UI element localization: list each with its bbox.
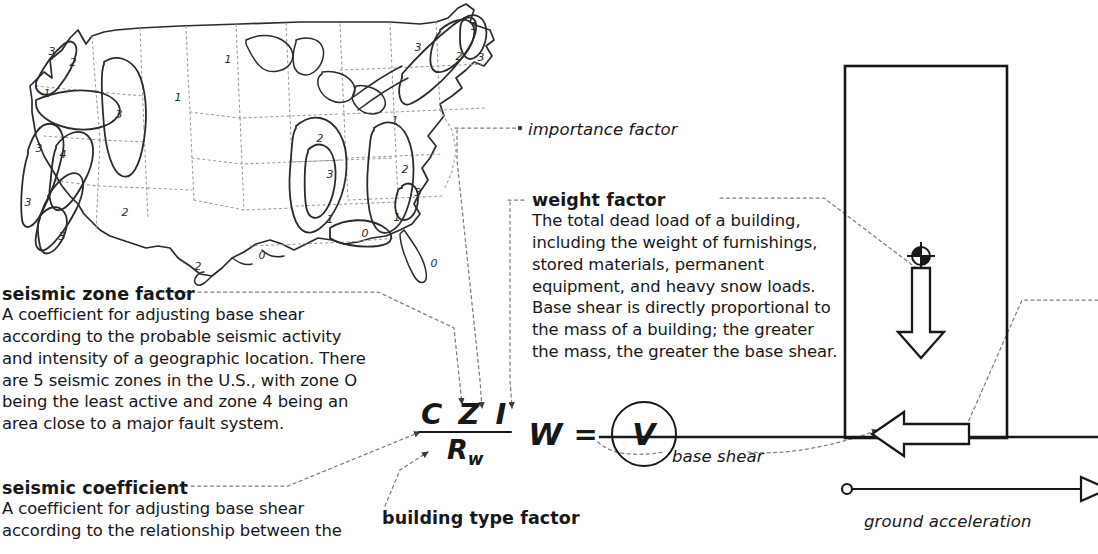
formula-fraction: C Z I Rw [418, 400, 512, 469]
base-shear-formula: C Z I Rw W = V [418, 392, 677, 476]
formula-result-symbol: V [632, 417, 655, 452]
leader-importance-factor [457, 130, 482, 408]
diagram-canvas: 32134333112223132312311000 [0, 0, 1098, 554]
weight-factor-body: The total dead load of a building, inclu… [532, 210, 844, 363]
formula-denominator-sub: w [468, 449, 484, 469]
seismic-zone-factor-body: A coefficient for adjusting base shear a… [2, 304, 374, 435]
seismic-zone-factor-heading: seismic zone factor [2, 284, 374, 304]
formula-weight-symbol: W [528, 416, 562, 452]
weight-factor-heading: weight factor [532, 190, 844, 210]
formula-result-circle: V [611, 401, 677, 467]
ground-acceleration-arrow-icon [842, 477, 1098, 501]
formula-numerator: C Z I [418, 400, 512, 431]
formula-equals: = [574, 417, 598, 451]
base-shear-arrow-icon [872, 412, 969, 456]
formula-denominator-base: R [447, 434, 468, 465]
callout-building-type-factor: building type factor [382, 508, 580, 528]
seismic-coefficient-body: A coefficient for adjusting base shear a… [2, 498, 374, 542]
leader-weight-factor-to-W [510, 202, 512, 408]
label-ground-acceleration: ground acceleration [864, 512, 1032, 531]
center-of-mass-icon [907, 242, 935, 270]
seismic-coefficient-heading: seismic coefficient [2, 478, 374, 498]
formula-denominator: Rw [447, 433, 484, 468]
callout-seismic-coefficient: seismic coefficient A coefficient for ad… [2, 478, 374, 542]
callout-seismic-zone-factor: seismic zone factor A coefficient for ad… [2, 284, 374, 435]
callout-importance-factor: importance factor [528, 120, 678, 139]
label-base-shear: base shear [672, 447, 764, 466]
callout-weight-factor: weight factor The total dead load of a b… [532, 190, 844, 363]
leader-base-shear-right [748, 430, 878, 453]
leader-right-edge [962, 300, 1098, 436]
weight-arrow-icon [898, 268, 944, 358]
